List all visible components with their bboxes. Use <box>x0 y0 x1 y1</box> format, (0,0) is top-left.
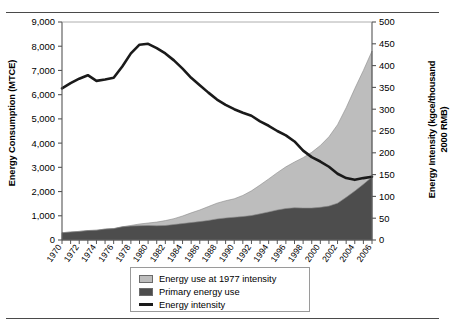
x-axis-tick-label: 1978 <box>113 242 132 264</box>
x-axis-tick-label: 2000 <box>303 242 322 264</box>
legend-item-energy-intensity: Energy intensity <box>139 298 309 311</box>
x-axis-tick-label: 1974 <box>79 242 98 264</box>
chart-legend: Energy use at 1977 intensity Primary ene… <box>130 267 310 312</box>
x-axis-tick-label: 1992 <box>234 242 253 264</box>
y-axis-right-tick-label: 300 <box>379 104 395 115</box>
y-axis-right-tick-label: 500 <box>379 16 395 27</box>
legend-item-primary-energy-use: Primary energy use <box>139 285 309 298</box>
x-axis-tick-label: 2006 <box>354 242 373 264</box>
y-axis-left-tick-label: 2,000 <box>32 186 55 197</box>
series-layer <box>62 44 372 240</box>
x-axis-tick-label: 1984 <box>165 242 184 264</box>
y-axis-right-tick-label: 50 <box>379 213 389 224</box>
x-axis-tick-label: 1996 <box>268 242 287 264</box>
y-axis-right-tick-label: 350 <box>379 82 395 93</box>
y-axis-right-tick-label: 150 <box>379 169 395 180</box>
legend-label: Primary energy use <box>159 287 240 297</box>
legend-line-icon <box>139 303 153 306</box>
y-axis-right-tick-label: 400 <box>379 60 395 71</box>
y-axis-right-tick-label: 200 <box>379 147 395 158</box>
y-axis-left-tick-label: 1,000 <box>32 210 55 221</box>
y-axis-left-tick-label: 6,000 <box>32 89 55 100</box>
y-axis-right-tick-label: 0 <box>379 234 384 245</box>
y-axis-left-tick-label: 7,000 <box>32 65 55 76</box>
y-axis-left-tick-label: 3,000 <box>32 162 55 173</box>
legend-item-energy-use-1977: Energy use at 1977 intensity <box>139 272 309 285</box>
y-axis-left-tick-label: 5,000 <box>32 113 55 124</box>
x-axis-tick-label: 1972 <box>62 242 81 264</box>
legend-label: Energy use at 1977 intensity <box>159 274 276 284</box>
y-axis-left-tick-label: 4,000 <box>32 138 55 149</box>
x-axis-tick-label: 1990 <box>217 242 236 264</box>
x-axis-tick-label: 1982 <box>148 242 167 264</box>
x-axis-tick-label: 1994 <box>251 242 270 264</box>
legend-swatch-icon <box>139 275 153 283</box>
y-axis-right-tick-label: 450 <box>379 38 395 49</box>
y-axis-right-tick-label: 250 <box>379 125 395 136</box>
x-axis-tick-label: 1986 <box>182 242 201 264</box>
x-axis-tick-label: 1970 <box>44 242 63 264</box>
y-axis-left-tick-label: 8,000 <box>32 41 55 52</box>
x-axis-tick-label: 1988 <box>199 242 218 264</box>
y-axis-left-tick-label: 9,000 <box>32 16 55 27</box>
x-axis-tick-label: 1998 <box>286 242 305 264</box>
y-axis-right-tick-label: 100 <box>379 191 395 202</box>
x-axis-tick-label: 2004 <box>337 242 356 264</box>
x-axis-tick-label: 2002 <box>320 242 339 264</box>
legend-label: Energy intensity <box>159 300 225 310</box>
x-axis-tick-label: 1976 <box>96 242 115 264</box>
legend-swatch-icon <box>139 288 153 296</box>
x-axis-tick-label: 1980 <box>131 242 150 264</box>
